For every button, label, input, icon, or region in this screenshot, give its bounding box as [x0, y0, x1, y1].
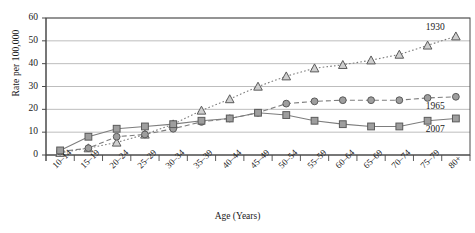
series-label-1965: 1965 — [426, 101, 445, 111]
y-tick-label: 20 — [14, 104, 38, 114]
y-tick-label: 50 — [14, 36, 38, 46]
plot-area — [0, 0, 475, 233]
y-tick-label: 0 — [14, 150, 38, 160]
y-tick-label: 60 — [14, 13, 38, 23]
series-label-1930: 1930 — [426, 22, 445, 32]
y-tick-label: 30 — [14, 82, 38, 92]
y-tick-label: 10 — [14, 127, 38, 137]
series-label-2007: 2007 — [426, 124, 445, 134]
y-tick-label: 40 — [14, 59, 38, 69]
line-chart-figure: Rate per 100,000 Age (Years) 60504030201… — [0, 0, 475, 233]
